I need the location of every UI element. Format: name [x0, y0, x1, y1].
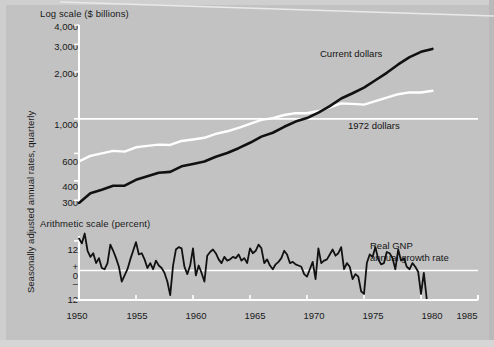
chart-figure: Log scale ($ billions) Arithmetic scale … — [0, 0, 494, 347]
plot-surface — [0, 0, 494, 347]
scan-artifact-line — [0, 0, 494, 24]
